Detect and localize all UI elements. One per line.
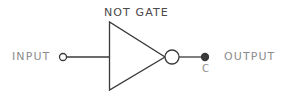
- output-terminal-icon: [202, 54, 209, 61]
- input-label: INPUT: [12, 51, 50, 62]
- output-node-label: C: [202, 64, 209, 74]
- inverter-triangle-icon: [110, 22, 166, 90]
- output-label: OUTPUT: [224, 51, 275, 62]
- not-gate-diagram: NOT GATE INPUT OUTPUT C: [0, 0, 285, 100]
- inversion-bubble-icon: [165, 50, 179, 64]
- input-terminal-icon: [60, 54, 67, 61]
- diagram-title: NOT GATE: [104, 7, 169, 18]
